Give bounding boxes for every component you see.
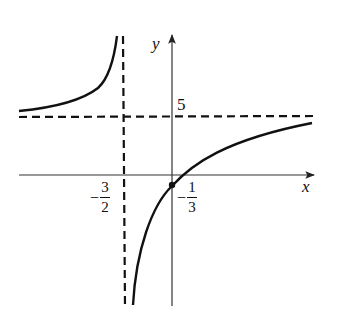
curve-left-branch bbox=[19, 36, 117, 111]
horizontal-asymptote-label: 5 bbox=[177, 96, 186, 113]
intercept-label: − 1 3 bbox=[177, 180, 197, 215]
vertical-asymptote bbox=[123, 36, 125, 306]
label-denominator: 3 bbox=[188, 200, 196, 215]
label-sign: − bbox=[177, 189, 186, 207]
fraction-bar bbox=[100, 197, 110, 198]
x-axis-label: x bbox=[302, 178, 310, 195]
label-numerator: 3 bbox=[101, 180, 109, 195]
horizontal-asymptote bbox=[19, 116, 313, 117]
intercept-point bbox=[169, 182, 175, 188]
vertical-asymptote-label: − 3 2 bbox=[90, 180, 110, 215]
label-numerator: 1 bbox=[188, 180, 196, 195]
curve-right-branch bbox=[133, 123, 312, 305]
label-denominator: 2 bbox=[101, 200, 109, 215]
label-sign: − bbox=[90, 189, 99, 207]
function-graph bbox=[0, 0, 339, 312]
fraction-bar bbox=[187, 197, 197, 198]
y-axis-label: y bbox=[152, 35, 160, 52]
